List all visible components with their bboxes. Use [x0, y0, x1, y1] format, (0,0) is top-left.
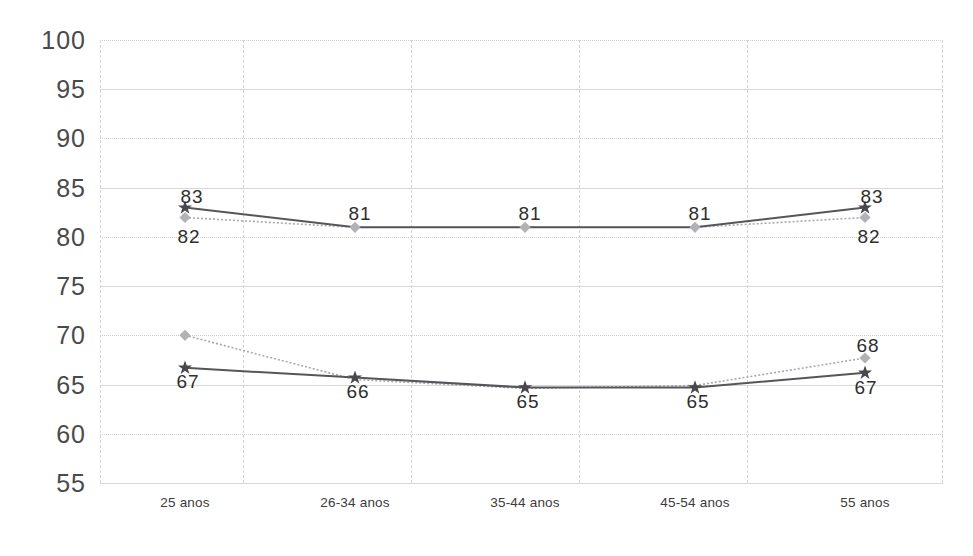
x-tick-label: 26-34 anos [320, 495, 390, 510]
x-tick-label: 35-44 anos [490, 495, 560, 510]
x-tick-label: 25 anos [160, 495, 209, 510]
marker-diamond-serie-4 [179, 330, 190, 341]
data-label: 81 [518, 204, 541, 223]
data-label: 82 [857, 227, 880, 246]
data-label: 67 [854, 378, 877, 397]
line-chart: 100 95 90 85 80 75 70 65 60 55 [0, 0, 973, 556]
marker-diamond-serie-2 [179, 212, 190, 223]
data-label: 83 [180, 187, 203, 206]
series-layer [0, 0, 973, 556]
data-label: 65 [686, 392, 709, 411]
data-label: 83 [860, 187, 883, 206]
x-axis: 25 anos 26-34 anos 35-44 anos 45-54 anos… [100, 495, 943, 525]
data-label: 68 [856, 336, 879, 355]
marker-diamond-serie-2 [859, 212, 870, 223]
data-label: 65 [516, 392, 539, 411]
x-tick-label: 45-54 anos [660, 495, 730, 510]
data-label: 81 [688, 204, 711, 223]
data-label: 67 [176, 372, 199, 391]
x-tick-label: 55 anos [840, 495, 889, 510]
data-label: 82 [177, 227, 200, 246]
data-label: 66 [346, 382, 369, 401]
data-label: 81 [348, 204, 371, 223]
